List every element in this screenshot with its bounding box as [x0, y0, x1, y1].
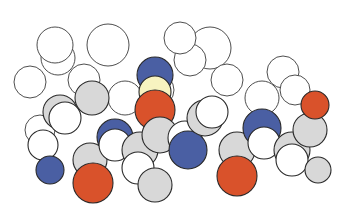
background-atom	[14, 66, 46, 98]
oxygen-atom	[217, 156, 257, 196]
background-atom	[211, 64, 243, 96]
oxygen-atom	[73, 163, 113, 203]
hydrogen-atom	[28, 130, 58, 160]
hydrogen-atom	[276, 144, 308, 176]
carbon-atom	[305, 157, 331, 183]
carbon-atom	[75, 81, 109, 115]
hydrogen-atom	[196, 96, 228, 128]
hydrogen-atom	[49, 102, 81, 134]
background-atom	[37, 27, 73, 63]
carbon-atom	[138, 168, 172, 202]
nitrogen-atom	[169, 131, 207, 169]
molecular-model-figure	[0, 0, 349, 219]
nitrogen-atom	[36, 156, 64, 184]
space-filling-model	[0, 0, 349, 219]
background-atom	[164, 22, 196, 54]
oxygen-atom	[301, 91, 329, 119]
background-atom	[87, 24, 129, 66]
